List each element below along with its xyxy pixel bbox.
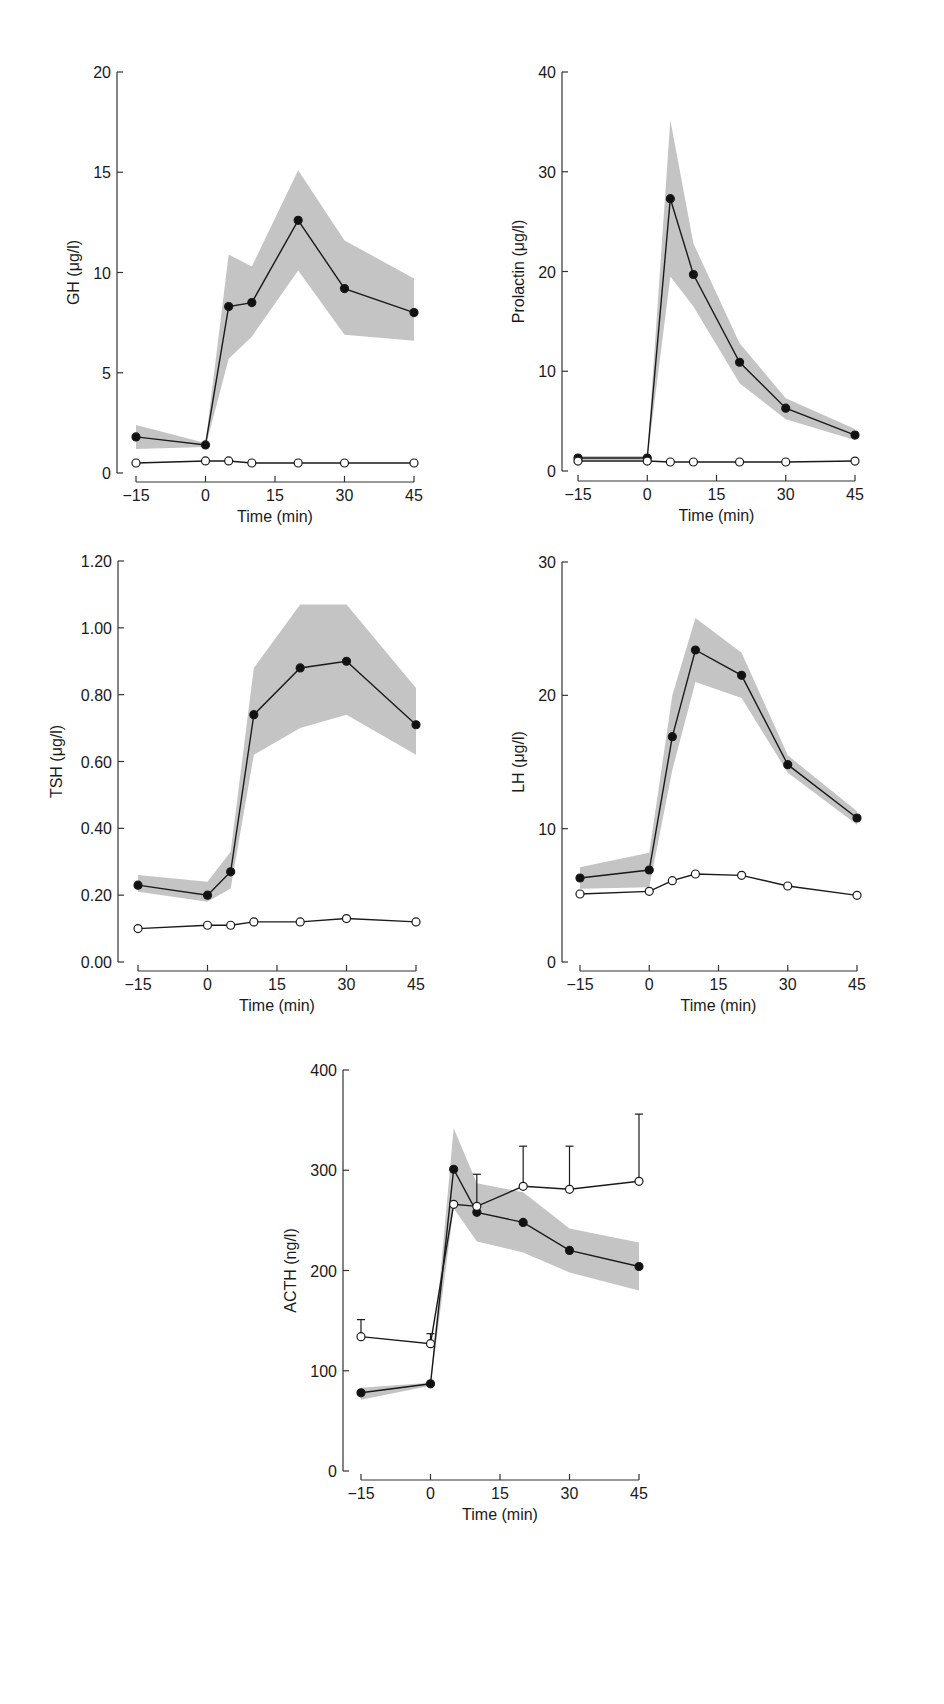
open-circle-marker [227,921,235,929]
filled-circle-marker [645,866,653,874]
filled-circle-marker [635,1262,643,1270]
open-circle-marker [782,458,790,466]
y-tick-label: 10 [93,265,111,282]
filled-circle-marker [576,874,584,882]
open-circle-marker [668,877,676,885]
open-circle-marker [202,457,210,465]
hormone-response-figure: 05101520GH (μg/l)−150153045Time (min) 01… [0,0,944,1704]
open-circle-marker [576,890,584,898]
y-tick-label: 0.40 [81,820,112,837]
series-treated [580,618,857,889]
filled-circle-marker [666,195,674,203]
open-circle-marker [691,870,699,878]
open-circle-marker [645,887,653,895]
filled-circle-marker [851,431,859,439]
filled-circle-marker [357,1389,365,1397]
x-tick-label: −15 [122,487,149,504]
open-circle-marker [410,459,418,467]
filled-circle-marker [250,711,258,719]
x-tick-label: 30 [561,1485,579,1502]
y-axis: 0102030LH (μg/l) [510,554,568,971]
x-tick-label: 45 [407,976,425,993]
filled-circle-marker [341,285,349,293]
y-tick-label: 0 [547,463,556,480]
y-tick-label: 0 [547,954,556,971]
y-tick-label: 20 [538,264,556,281]
filled-circle-marker [410,309,418,317]
chart-prolactin: 010203040Prolactin (μg/l)−150153045Time … [510,64,864,524]
y-tick-label: 40 [538,64,556,81]
filled-circle-marker [202,441,210,449]
x-tick-label: 15 [710,976,728,993]
open-circle-marker [294,459,302,467]
series-treated [361,1128,639,1400]
open-circle-marker [851,457,859,465]
filled-circle-marker [668,733,676,741]
y-tick-label: 30 [538,554,556,571]
sem-band [136,170,414,449]
open-circle-marker [204,921,212,929]
open-circle-marker [666,458,674,466]
filled-circle-marker [566,1246,574,1254]
x-axis-title: Time (min) [237,508,313,525]
open-circle-marker [635,1177,643,1185]
filled-circle-marker [227,868,235,876]
y-axis-title: Prolactin (μg/l) [510,220,527,323]
y-tick-label: 200 [310,1263,337,1280]
series-control-line [134,915,420,933]
x-tick-label: 30 [338,976,356,993]
x-tick-label: 15 [491,1485,509,1502]
chart-tsh: 0.000.200.400.600.801.001.20TSH (μg/l)−1… [48,553,425,1014]
open-circle-marker [357,1333,365,1341]
y-tick-label: 400 [310,1062,337,1079]
filled-circle-marker [427,1380,435,1388]
open-circle-marker [738,871,746,879]
y-tick-label: 5 [102,365,111,382]
chart-lh: 0102030LH (μg/l)−150153045Time (min) [510,554,866,1014]
x-axis-title: Time (min) [239,997,315,1014]
x-tick-label: 45 [405,487,423,504]
x-tick-label: 0 [645,976,654,993]
y-axis: 0100200300400ACTH (ng/l) [282,1062,349,1480]
y-tick-label: 100 [310,1363,337,1380]
chart-gh: 05101520GH (μg/l)−150153045Time (min) [65,64,423,525]
x-tick-label: 0 [426,1485,435,1502]
sem-band [138,604,416,901]
filled-circle-marker [134,881,142,889]
y-tick-label: 0 [328,1463,337,1480]
open-circle-marker [574,457,582,465]
y-tick-label: 0.20 [81,887,112,904]
x-tick-label: −15 [564,486,591,503]
x-tick-label: 45 [630,1485,648,1502]
x-axis: −150153045Time (min) [124,965,425,1014]
y-axis-title: ACTH (ng/l) [282,1228,299,1312]
open-circle-marker [450,1200,458,1208]
filled-circle-marker [519,1218,527,1226]
filled-circle-marker [343,657,351,665]
open-circle-marker [296,918,304,926]
x-axis: −150153045Time (min) [347,1474,648,1523]
open-circle-marker [341,459,349,467]
open-circle-marker [343,915,351,923]
y-tick-label: 0.00 [81,954,112,971]
x-axis-title: Time (min) [681,997,757,1014]
x-tick-label: −15 [124,976,151,993]
y-tick-label: 30 [538,164,556,181]
open-circle-marker [412,918,420,926]
y-axis: 0.000.200.400.600.801.001.20TSH (μg/l) [48,553,124,971]
x-tick-label: 15 [266,487,284,504]
x-tick-label: 45 [846,486,864,503]
sem-band [578,120,855,460]
open-circle-marker [853,891,861,899]
x-tick-label: 0 [643,486,652,503]
y-axis-title: TSH (μg/l) [48,725,65,798]
x-tick-label: −15 [566,976,593,993]
open-circle-marker [225,457,233,465]
filled-circle-marker [782,404,790,412]
filled-circle-marker [204,891,212,899]
x-axis: −150153045Time (min) [564,475,864,524]
series-treated [138,604,416,901]
x-tick-label: −15 [347,1485,374,1502]
x-tick-label: 30 [336,487,354,504]
filled-circle-marker [248,299,256,307]
